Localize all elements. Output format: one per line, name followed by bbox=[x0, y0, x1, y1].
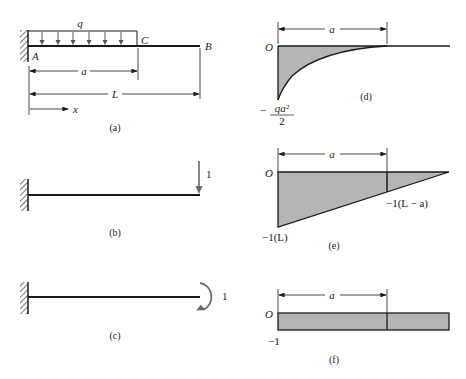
panel-a-cantilever-distributed-load: q C B A a L x (a) bbox=[20, 17, 212, 134]
load-q-label: q bbox=[77, 17, 83, 29]
svg-text:−: − bbox=[260, 104, 266, 116]
svg-text:qa²: qa² bbox=[275, 102, 290, 114]
dimension-l-label: L bbox=[111, 88, 118, 100]
svg-text:2: 2 bbox=[279, 115, 285, 127]
origin-label: O bbox=[265, 167, 273, 179]
beam-diagram-figure: q C B A a L x (a) 1 (b) bbox=[0, 0, 466, 379]
value-label: −1 bbox=[268, 335, 280, 347]
fixed-support-icon bbox=[20, 30, 28, 62]
distributed-load-icon bbox=[28, 31, 137, 46]
unit-load-label: 1 bbox=[206, 168, 212, 180]
origin-label: O bbox=[265, 41, 273, 53]
caption-c: (c) bbox=[109, 330, 120, 342]
point-b-label: B bbox=[205, 40, 212, 52]
dimension-a-label: a bbox=[329, 148, 335, 160]
point-c-label: C bbox=[141, 34, 149, 46]
caption-a: (a) bbox=[109, 122, 120, 134]
caption-b: (b) bbox=[109, 227, 121, 239]
panel-e-unit-load-moment-diagram: a O −1(L − a) −1(L) (e) bbox=[262, 148, 449, 252]
fixed-support-icon bbox=[20, 179, 28, 211]
caption-f: (f) bbox=[329, 354, 339, 366]
unit-moment-label: 1 bbox=[222, 290, 228, 302]
point-a-label: A bbox=[31, 50, 39, 62]
moment-area bbox=[278, 313, 449, 330]
value-label-mid: −1(L − a) bbox=[386, 197, 428, 210]
value-label-end: −1(L) bbox=[262, 231, 288, 244]
caption-d: (d) bbox=[360, 91, 372, 103]
unit-load-arrow-icon bbox=[196, 161, 203, 194]
origin-label: O bbox=[265, 308, 273, 320]
fixed-support-icon bbox=[20, 282, 28, 314]
panel-f-unit-moment-diagram: a O −1 (f) bbox=[265, 289, 449, 366]
panel-d-moment-diagram: a O − qa² 2 (d) bbox=[260, 22, 450, 127]
dimension-a-label: a bbox=[329, 289, 335, 301]
dimension-a-label: a bbox=[329, 23, 335, 35]
panel-c-cantilever-unit-moment: 1 (c) bbox=[20, 282, 228, 342]
unit-moment-arrow-icon bbox=[195, 283, 211, 315]
dimension-a-label: a bbox=[81, 65, 87, 77]
x-axis-label: x bbox=[72, 103, 78, 115]
value-label-neg-qa2-over-2: − qa² 2 bbox=[260, 102, 294, 127]
caption-e: (e) bbox=[328, 240, 339, 252]
panel-b-cantilever-unit-load: 1 (b) bbox=[20, 161, 212, 239]
